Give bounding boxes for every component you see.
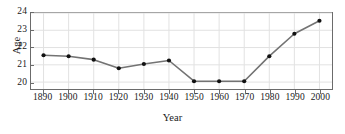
data-point: [267, 54, 271, 58]
plot-area: [30, 12, 333, 90]
y-axis-tick-label: 20: [5, 78, 27, 88]
x-axis-tick-label: 2000: [300, 93, 340, 103]
data-point: [217, 79, 221, 83]
x-axis-tick-mark: [144, 90, 145, 94]
x-axis-tick-mark: [270, 90, 271, 94]
x-axis-tick-mark: [68, 90, 69, 94]
data-point: [292, 32, 296, 36]
y-axis-tick-mark: [30, 12, 34, 13]
x-axis-tick-mark: [118, 90, 119, 94]
y-axis-tick-mark: [30, 65, 34, 66]
data-point: [167, 58, 171, 62]
x-axis-tick-mark: [194, 90, 195, 94]
y-axis-tick-mark: [30, 83, 34, 84]
x-axis-tick-mark: [219, 90, 220, 94]
data-point: [192, 79, 196, 83]
data-point: [41, 53, 45, 57]
data-point: [92, 58, 96, 62]
x-axis-tick-mark: [320, 90, 321, 94]
data-point: [142, 62, 146, 66]
data-point: [67, 54, 71, 58]
data-point: [317, 19, 321, 23]
data-point: [242, 79, 246, 83]
line-chart-figure: 2021222324 18901900191019201930194019501…: [0, 0, 345, 134]
x-axis-title: Year: [0, 112, 345, 123]
y-axis-tick-mark: [30, 47, 34, 48]
x-axis-tick-mark: [43, 90, 44, 94]
x-axis-tick-mark: [245, 90, 246, 94]
y-axis-tick-mark: [30, 30, 34, 31]
x-axis-tick-mark: [169, 90, 170, 94]
x-axis-tick-mark: [93, 90, 94, 94]
page-scan-artifact: [0, 128, 345, 134]
y-axis-tick-label: 24: [5, 7, 27, 17]
data-series-age: [31, 13, 332, 89]
data-point: [117, 66, 121, 70]
y-axis-title: Age: [11, 26, 22, 66]
x-axis-tick-mark: [295, 90, 296, 94]
